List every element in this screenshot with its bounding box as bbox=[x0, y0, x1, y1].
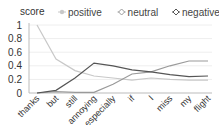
legend-item-neutral: neutral bbox=[118, 7, 159, 18]
legend-label: negative bbox=[182, 7, 219, 18]
line-chart: 00.20.40.60.81 thanksbutstillannoyingesp… bbox=[0, 0, 219, 125]
gridlines bbox=[29, 25, 212, 79]
series-line-negative bbox=[37, 63, 208, 93]
y-tick-label: 1 bbox=[16, 20, 22, 31]
legend: positiveneutralnegative bbox=[58, 7, 219, 18]
y-tick-label: 0.2 bbox=[8, 74, 22, 85]
x-tick-label: miss bbox=[154, 93, 175, 114]
series-lines bbox=[37, 25, 208, 93]
diamond-marker-icon bbox=[173, 9, 179, 15]
circle-marker-icon bbox=[60, 10, 64, 14]
x-tick-label: if bbox=[126, 93, 137, 104]
legend-item-positive: positive bbox=[58, 7, 102, 18]
y-tick-label: 0.8 bbox=[8, 33, 22, 44]
x-tick-label: I bbox=[147, 93, 156, 102]
diamond-marker-icon bbox=[119, 9, 125, 15]
y-axis-ticks: 00.20.40.60.81 bbox=[8, 20, 22, 99]
legend-label: positive bbox=[68, 7, 102, 18]
axes bbox=[29, 23, 212, 93]
y-axis-label: score bbox=[20, 6, 45, 17]
chart-canvas: 00.20.40.60.81 thanksbutstillannoyingesp… bbox=[0, 0, 219, 125]
x-tick-label: flight bbox=[192, 93, 213, 114]
legend-item-negative: negative bbox=[172, 7, 219, 18]
x-tick-label: but bbox=[44, 93, 60, 109]
y-tick-label: 0 bbox=[16, 88, 22, 99]
x-axis-ticks: thanksbutstillannoyingespeciallyifImissm… bbox=[16, 93, 213, 125]
y-tick-label: 0.6 bbox=[8, 47, 22, 58]
y-tick-label: 0.4 bbox=[8, 60, 22, 71]
legend-label: neutral bbox=[128, 7, 159, 18]
